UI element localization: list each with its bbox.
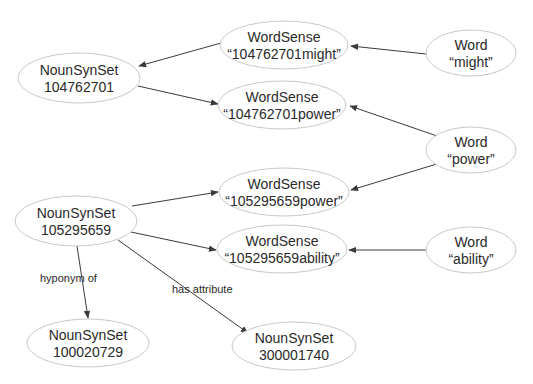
node-value-label: “105295659power” bbox=[225, 193, 343, 209]
node-type-label: Word bbox=[454, 37, 487, 53]
node-value-label: “104762701might” bbox=[227, 46, 341, 62]
edge-w_might-to-ws_might bbox=[351, 46, 426, 54]
node-type-label: WordSense bbox=[246, 233, 319, 249]
edge-arrow bbox=[350, 106, 440, 137]
node-value-label: 300001740 bbox=[259, 347, 329, 363]
edge-arrow bbox=[132, 192, 218, 206]
node-ns300001740: NounSynSet300001740 bbox=[232, 322, 356, 370]
node-ns104762701: NounSynSet104762701 bbox=[18, 53, 140, 103]
node-ws_105power: WordSense“105295659power” bbox=[219, 168, 349, 216]
edge-ns105295659-to-ns100020729: hyponym of bbox=[40, 246, 98, 318]
node-type-label: WordSense bbox=[248, 176, 321, 192]
edge-arrow bbox=[351, 163, 440, 190]
node-type-label: WordSense bbox=[248, 29, 321, 45]
node-type-label: NounSynSet bbox=[49, 327, 128, 343]
node-w_power: Word“power” bbox=[426, 127, 516, 173]
edge-w_power-to-ws_105power bbox=[351, 163, 440, 190]
edge-arrow bbox=[139, 43, 221, 66]
node-w_ability: Word“ability” bbox=[426, 227, 516, 273]
edge-ns105295659-to-ws_ability bbox=[131, 232, 216, 250]
edge-label: has attribute bbox=[172, 283, 233, 295]
node-value-label: “104762701power” bbox=[223, 106, 341, 122]
node-ws_ability: WordSense“105295659ability” bbox=[217, 225, 347, 273]
node-type-label: NounSynSet bbox=[255, 330, 334, 346]
edge-ns104762701-to-ws_104power bbox=[138, 86, 218, 104]
node-value-label: 100020729 bbox=[53, 344, 123, 360]
node-ellipse bbox=[18, 53, 140, 103]
node-value-label: “power” bbox=[447, 151, 495, 167]
node-value-label: “ability” bbox=[448, 251, 493, 267]
nodes-layer: NounSynSet104762701WordSense“104762701mi… bbox=[15, 21, 516, 370]
node-ws_104power: WordSense“104762701power” bbox=[218, 81, 346, 129]
node-value-label: 105295659 bbox=[41, 222, 111, 238]
node-ns105295659: NounSynSet105295659 bbox=[15, 196, 137, 246]
wordnet-graph: hyponym ofhas attribute NounSynSet104762… bbox=[0, 0, 533, 384]
node-type-label: WordSense bbox=[246, 89, 319, 105]
node-ns100020729: NounSynSet100020729 bbox=[27, 319, 149, 367]
node-type-label: Word bbox=[454, 234, 487, 250]
node-type-label: NounSynSet bbox=[37, 205, 116, 221]
edge-w_power-to-ws_104power bbox=[350, 106, 440, 137]
node-ellipse bbox=[15, 196, 137, 246]
node-ws_might: WordSense“104762701might” bbox=[220, 21, 348, 69]
edge-arrow bbox=[138, 86, 218, 104]
node-value-label: “might” bbox=[449, 54, 493, 70]
edge-label: hyponym of bbox=[40, 272, 98, 284]
node-type-label: Word bbox=[454, 134, 487, 150]
edge-ns105295659-to-ws_105power bbox=[132, 192, 218, 206]
edge-ws_might-to-ns104762701 bbox=[139, 43, 221, 66]
edge-arrow bbox=[351, 46, 426, 54]
node-w_might: Word“might” bbox=[426, 30, 516, 76]
node-value-label: 104762701 bbox=[44, 79, 114, 95]
node-value-label: “105295659ability” bbox=[224, 250, 340, 266]
node-type-label: NounSynSet bbox=[40, 62, 119, 78]
edge-arrow bbox=[131, 232, 216, 250]
